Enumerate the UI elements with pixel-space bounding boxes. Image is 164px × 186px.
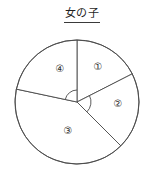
slice-label-3: ③ <box>61 124 75 138</box>
pie-chart-figure: 女の子 ①②③④ <box>0 0 164 186</box>
slice-label-4: ④ <box>53 62 67 76</box>
slice-label-1: ① <box>91 60 105 74</box>
slice-label-2: ② <box>111 97 125 111</box>
pie-chart-svg <box>0 0 164 186</box>
